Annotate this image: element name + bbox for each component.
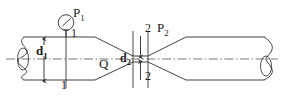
- pressure-p1-label: P1: [73, 6, 85, 22]
- section-label-2-lower: 2: [145, 70, 151, 82]
- diameter-d2-label: d2: [120, 52, 131, 68]
- gauge-needle: [63, 19, 71, 27]
- flow-rate-q-label: Q: [99, 57, 108, 70]
- pressure-p2-label: P2: [157, 21, 169, 37]
- section-label-1-upper: 1: [71, 27, 77, 39]
- pipe-lower-wall: [24, 62, 264, 80]
- section-label-2-upper: 2: [145, 22, 151, 34]
- pipe-break-symbol-left: [18, 37, 29, 80]
- pipe-upper-wall: [24, 37, 264, 56]
- section-label-1-lower: 1: [61, 79, 67, 91]
- pipe-break-symbol-right: [261, 37, 273, 80]
- diameter-d1-label: d1: [36, 44, 48, 60]
- venturi-diagram: P1 1 1 d1 Q d2 2 P2 2: [0, 0, 284, 102]
